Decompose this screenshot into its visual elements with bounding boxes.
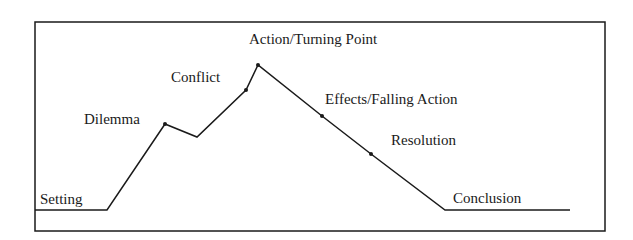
stage-dot	[320, 114, 324, 118]
label-dilemma: Dilemma	[84, 111, 140, 127]
label-resolution: Resolution	[391, 132, 457, 148]
plot-line	[35, 65, 570, 210]
stage-dot	[163, 122, 167, 126]
label-conflict: Conflict	[171, 69, 221, 85]
label-turning-point: Action/Turning Point	[249, 31, 378, 47]
label-conclusion: Conclusion	[453, 190, 522, 206]
label-setting: Setting	[40, 191, 83, 207]
stage-dot	[369, 152, 373, 156]
stage-labels: Setting Dilemma Conflict Action/Turning …	[40, 31, 522, 207]
plot-diagram: Setting Dilemma Conflict Action/Turning …	[0, 0, 633, 240]
stage-dot	[244, 88, 248, 92]
label-falling-action: Effects/Falling Action	[325, 91, 458, 107]
stage-dot	[256, 63, 260, 67]
